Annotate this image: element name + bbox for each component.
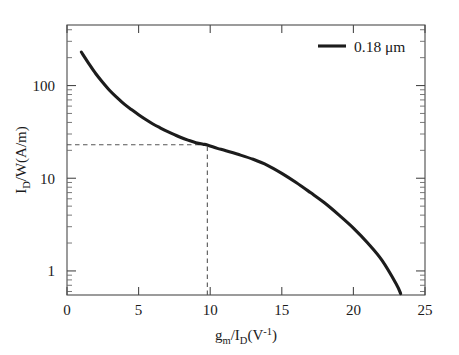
legend-label: 0.18 μm (354, 38, 405, 55)
xlabel-unit-close: ) (272, 327, 277, 344)
ylabel-unit: (A/m) (13, 126, 30, 163)
figure-container: 100101 0510152025 0.18 μm gm/ID(V-1) ID/… (0, 0, 459, 355)
y-tick-label: 100 (33, 78, 56, 94)
y-tick-label: 10 (40, 171, 55, 187)
chart-svg: 100101 0510152025 0.18 μm gm/ID(V-1) ID/… (0, 0, 459, 355)
x-tick-label: 10 (203, 302, 218, 318)
x-tick-label: 5 (135, 302, 143, 318)
x-tick-label: 25 (418, 302, 433, 318)
xlabel-unit-open: (V (247, 327, 263, 344)
x-tick-label: 20 (346, 302, 361, 318)
ylabel-w: /W (13, 162, 29, 181)
x-tick-label: 15 (274, 302, 289, 318)
x-tick-label: 0 (63, 302, 71, 318)
xlabel-gm-sub: m (222, 335, 230, 346)
xlabel-unit-exp: -1 (263, 326, 272, 337)
y-tick-label: 1 (48, 263, 56, 279)
